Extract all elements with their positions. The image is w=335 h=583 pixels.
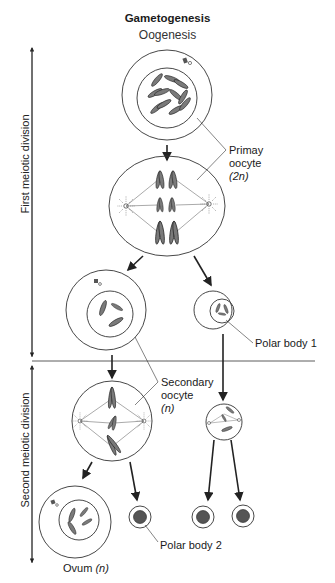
polar-body-1-dividing-cell	[206, 404, 242, 440]
secondary-oocyte-label-2: oocyte	[161, 389, 193, 402]
second-division-label: Second meiotic division	[19, 375, 31, 525]
ovum-cell	[39, 486, 111, 558]
centriole-icon	[182, 57, 191, 64]
primary-oocyte-leader	[197, 118, 226, 180]
secondary-ploidy-label: (n)	[161, 402, 174, 415]
diagram-title: Gametogenesis	[0, 12, 335, 25]
arrow-to-ovum	[83, 462, 92, 478]
secondary-oocyte-leader	[135, 337, 158, 405]
primary-ploidy-label: (2n)	[229, 170, 249, 183]
polar-body-1-label: Polar body 1	[255, 337, 317, 350]
metaphase-ii-cell	[72, 381, 152, 461]
arrow-to-polar-body-4	[231, 440, 240, 500]
ovum-label: Ovum (n)	[63, 562, 109, 575]
first-division-label: First meiotic division	[19, 94, 31, 234]
chromosomes	[147, 72, 192, 115]
polar-body-2-cell	[129, 506, 158, 542]
ovum-ploidy-label: (n)	[95, 562, 108, 574]
secondary-oocyte-cell	[66, 270, 146, 350]
oogenesis-diagram	[0, 0, 335, 583]
polar-body-4-cell	[232, 505, 254, 527]
polar-body-2-label: Polar body 2	[160, 539, 222, 552]
diagram-subtitle: Oogenesis	[0, 29, 335, 42]
metaphase-i-cell	[109, 156, 225, 256]
arrow-to-polar-body-3	[208, 440, 214, 500]
arrow-to-polar-body-1	[194, 256, 211, 285]
polar-body-3-cell	[192, 506, 214, 528]
primary-oocyte-label: Primay	[229, 144, 263, 157]
secondary-oocyte-label: Secondary	[161, 376, 214, 389]
arrow-to-secondary-oocyte	[128, 256, 143, 270]
primary-oocyte-label-2: oocyte	[229, 157, 261, 170]
arrow-to-polar-body-2	[130, 462, 137, 500]
ovum-label-text: Ovum	[63, 562, 92, 574]
primary-oocyte-cell	[122, 50, 212, 140]
